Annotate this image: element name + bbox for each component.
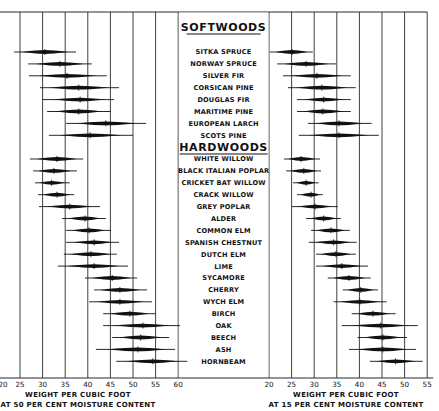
species-label: HORNBEAM bbox=[201, 358, 246, 366]
mean-spindle bbox=[73, 240, 113, 244]
left-bar-oak bbox=[103, 323, 180, 329]
left-bar-douglas-fir bbox=[43, 97, 114, 103]
mean-spindle bbox=[101, 288, 141, 292]
right-bar-white-willow bbox=[284, 156, 320, 162]
right-bar-european-larch bbox=[308, 120, 372, 126]
mean-spindle bbox=[59, 133, 122, 137]
left-bar-lime bbox=[58, 263, 128, 269]
left-bar-norway-spruce bbox=[28, 61, 92, 67]
species-label: CHERRY bbox=[208, 286, 239, 294]
mean-spindle bbox=[303, 110, 343, 114]
species-label: DOUGLAS FIR bbox=[197, 96, 249, 104]
right-bar-scots-pine bbox=[299, 132, 379, 138]
left-range-bars bbox=[14, 49, 187, 364]
left-bar-sycamore bbox=[85, 275, 137, 281]
mean-spindle bbox=[275, 50, 307, 54]
left-bar-corsican-pine bbox=[40, 85, 119, 91]
left-bar-white-willow bbox=[30, 156, 83, 162]
right-axis-title-line2: AT 15 PER CENT MOISTURE CONTENT bbox=[268, 401, 423, 409]
mean-spindle bbox=[52, 98, 106, 102]
left-bar-maritime-pine bbox=[47, 109, 110, 115]
right-bar-common-elm bbox=[311, 227, 350, 233]
species-label: CRACK WILLOW bbox=[193, 191, 254, 199]
right-bar-cherry bbox=[343, 287, 378, 293]
right-bar-cricket-bat-willow bbox=[293, 180, 319, 186]
species-label: EUROPEAN LARCH bbox=[188, 120, 258, 128]
right-tick-label: 35 bbox=[332, 380, 341, 389]
mean-spindle bbox=[50, 86, 109, 90]
right-bar-spanish-chestnut bbox=[309, 239, 357, 245]
species-label: WHITE WILLOW bbox=[194, 155, 254, 163]
right-bar-sycamore bbox=[328, 275, 371, 281]
mean-spindle bbox=[357, 312, 390, 316]
left-tick-label: 25 bbox=[15, 380, 24, 389]
left-bar-scots-pine bbox=[49, 132, 133, 138]
right-bar-corsican-pine bbox=[288, 85, 356, 91]
mean-spindle bbox=[38, 169, 71, 173]
left-bar-ash bbox=[96, 346, 175, 352]
species-label: SITKA SPRUCE bbox=[196, 48, 252, 56]
mean-spindle bbox=[301, 193, 320, 197]
left-bar-spanish-chestnut bbox=[66, 239, 119, 245]
species-label: BLACK ITALIAN POPLAR bbox=[178, 167, 269, 175]
mean-spindle bbox=[67, 264, 120, 268]
mean-spindle bbox=[92, 276, 131, 280]
axes: 2025303540455055602025303540455055WEIGHT… bbox=[0, 378, 433, 409]
mean-spindle bbox=[72, 229, 106, 233]
right-bar-lime bbox=[316, 263, 368, 269]
species-label: SYCAMORE bbox=[202, 274, 245, 282]
right-bar-douglas-fir bbox=[297, 97, 351, 103]
left-bar-wych-elm bbox=[89, 299, 152, 305]
right-bar-alder bbox=[306, 216, 341, 222]
species-label: SCOTS PINE bbox=[201, 132, 247, 140]
right-bar-norway-spruce bbox=[277, 61, 336, 67]
left-bar-common-elm bbox=[66, 227, 111, 233]
species-label: MARITIME PINE bbox=[194, 108, 254, 116]
left-tick-label: 40 bbox=[83, 380, 93, 389]
left-tick-label: 45 bbox=[106, 380, 115, 389]
mean-spindle bbox=[351, 324, 408, 328]
left-tick-label: 20 bbox=[0, 380, 8, 389]
right-tick-label: 45 bbox=[377, 380, 386, 389]
left-tick-label: 55 bbox=[151, 380, 160, 389]
species-label: BIRCH bbox=[212, 310, 236, 318]
chart-canvas: SOFTWOODSHARDWOODSSITKA SPRUCENORWAY SPR… bbox=[0, 0, 439, 411]
species-label: CRICKET BAT WILLOW bbox=[181, 179, 266, 187]
right-tick-label: 50 bbox=[400, 380, 410, 389]
hardwoods-header: HARDWOODS bbox=[179, 141, 268, 154]
left-bar-european-larch bbox=[66, 120, 146, 126]
mean-spindle bbox=[71, 252, 111, 256]
left-bar-dutch-elm bbox=[64, 251, 117, 257]
left-bar-cherry bbox=[94, 287, 147, 293]
right-bar-oak bbox=[342, 323, 418, 329]
right-tick-label: 30 bbox=[310, 380, 320, 389]
left-bar-beech bbox=[112, 335, 169, 341]
species-label: WYCH ELM bbox=[203, 298, 244, 306]
mean-spindle bbox=[97, 300, 144, 304]
mean-spindle bbox=[364, 336, 401, 340]
species-label: COMMON ELM bbox=[196, 227, 250, 235]
right-axis-title-line1: WEIGHT PER CUBIC FOOT bbox=[293, 391, 399, 399]
right-bar-crack-willow bbox=[297, 192, 323, 198]
timber-weight-chart: SOFTWOODSHARDWOODSSITKA SPRUCENORWAY SPR… bbox=[0, 0, 439, 411]
right-bar-silver-fir bbox=[283, 73, 351, 79]
left-bar-cricket-bat-willow bbox=[35, 180, 70, 186]
mean-spindle bbox=[315, 240, 351, 244]
left-axis-title-line1: WEIGHT PER CUBIC FOOT bbox=[25, 391, 131, 399]
mean-spindle bbox=[43, 193, 70, 197]
left-axis-title-line2: AT 50 PER CENT MOISTURE CONTENT bbox=[0, 401, 155, 409]
left-bar-black-italian-poplar bbox=[33, 168, 77, 174]
right-bar-hornbeam bbox=[370, 358, 423, 364]
species-label: SPANISH CHESTNUT bbox=[185, 239, 263, 247]
species-label: CORSICAN PINE bbox=[193, 84, 254, 92]
mean-spindle bbox=[316, 122, 364, 126]
left-bar-birch bbox=[103, 311, 155, 317]
right-tick-label: 25 bbox=[287, 380, 296, 389]
left-tick-label: 30 bbox=[38, 380, 48, 389]
right-bar-grey-poplar bbox=[292, 204, 338, 210]
mean-spindle bbox=[68, 217, 101, 221]
right-bar-wych-elm bbox=[334, 299, 387, 305]
left-bar-hornbeam bbox=[116, 358, 187, 364]
left-bar-grey-poplar bbox=[39, 204, 100, 210]
left-bar-sitka-spruce bbox=[14, 49, 76, 55]
